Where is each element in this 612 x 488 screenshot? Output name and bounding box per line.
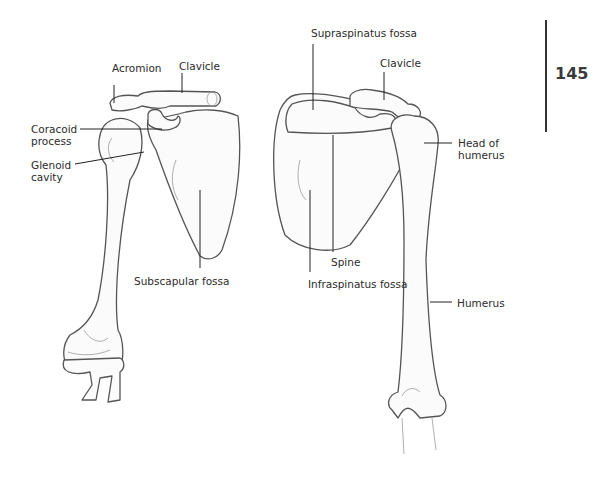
label-subscapular-fossa: Subscapular fossa xyxy=(134,275,229,287)
label-glenoid-line2: cavity xyxy=(31,171,71,183)
label-infraspinatus-fossa: Infraspinatus fossa xyxy=(308,278,407,290)
label-glenoid-line1: Glenoid xyxy=(31,159,71,171)
label-coracoid-line2: process xyxy=(31,135,77,147)
label-humerus: Humerus xyxy=(457,297,505,309)
label-acromion: Acromion xyxy=(112,62,162,74)
label-clavicle-left: Clavicle xyxy=(179,60,220,72)
label-head-line2: humerus xyxy=(458,149,504,161)
label-head-of-humerus: Head of humerus xyxy=(458,137,504,161)
label-clavicle-right: Clavicle xyxy=(380,57,421,69)
label-spine: Spine xyxy=(331,256,360,268)
label-coracoid-process: Coracoid process xyxy=(31,123,77,147)
label-coracoid-line1: Coracoid xyxy=(31,123,77,135)
label-supraspinatus-fossa: Supraspinatus fossa xyxy=(311,27,417,39)
left-scapula xyxy=(147,110,239,259)
left-humerus xyxy=(64,118,142,368)
label-glenoid-cavity: Glenoid cavity xyxy=(31,159,71,183)
label-head-line1: Head of xyxy=(458,137,504,149)
shoulder-illustration xyxy=(0,0,612,488)
